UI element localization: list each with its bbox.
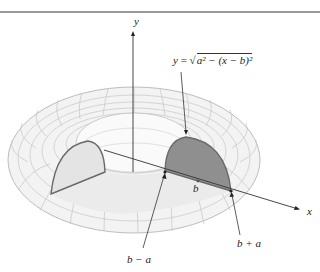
equation-radicand: a² − (x − b)² [197, 53, 253, 66]
equation-lhs: y [173, 54, 178, 66]
x-axis-arrowhead [294, 206, 300, 210]
equation-label: y = √a² − (x − b)² [173, 53, 252, 66]
point-b-minus-a-label: b − a [127, 254, 151, 265]
sqrt-symbol: √ [190, 54, 196, 66]
x-axis-label: x [307, 206, 312, 217]
equation-equals: = [181, 54, 187, 66]
y-axis-arrowhead [131, 31, 135, 36]
point-b-plus-a-label: b + a [237, 238, 261, 249]
point-b-label: b [193, 183, 199, 194]
y-axis-label: y [134, 16, 139, 27]
torus-diagram [0, 0, 320, 272]
point-b-plus-a [229, 189, 232, 192]
